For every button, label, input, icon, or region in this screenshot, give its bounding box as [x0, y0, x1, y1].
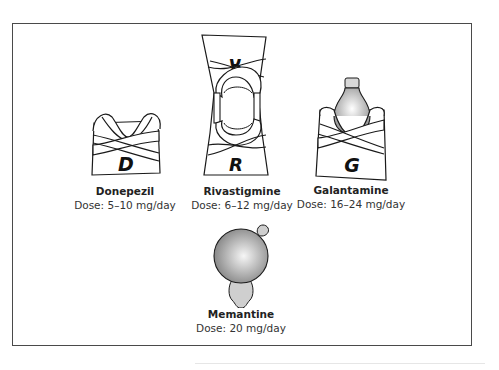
donepezil-icon: D: [88, 105, 164, 177]
drug-name: Memantine: [171, 308, 311, 321]
svg-text:D: D: [118, 153, 134, 175]
drug-name: Galantamine: [281, 184, 421, 197]
svg-text:R: R: [229, 154, 243, 175]
drug-label-galantamine: Galantamine Dose: 16–24 mg/day: [281, 184, 421, 211]
drug-label-memantine: Memantine Dose: 20 mg/day: [171, 308, 311, 335]
galantamine-icon: G: [314, 76, 390, 182]
memantine-icon: [208, 224, 274, 308]
drug-dose: Dose: 20 mg/day: [171, 321, 311, 335]
drug-dose: Dose: 16–24 mg/day: [281, 197, 421, 211]
page-divider: [195, 363, 485, 364]
rivastigmine-icon: R R: [200, 33, 274, 178]
svg-text:G: G: [344, 154, 360, 176]
